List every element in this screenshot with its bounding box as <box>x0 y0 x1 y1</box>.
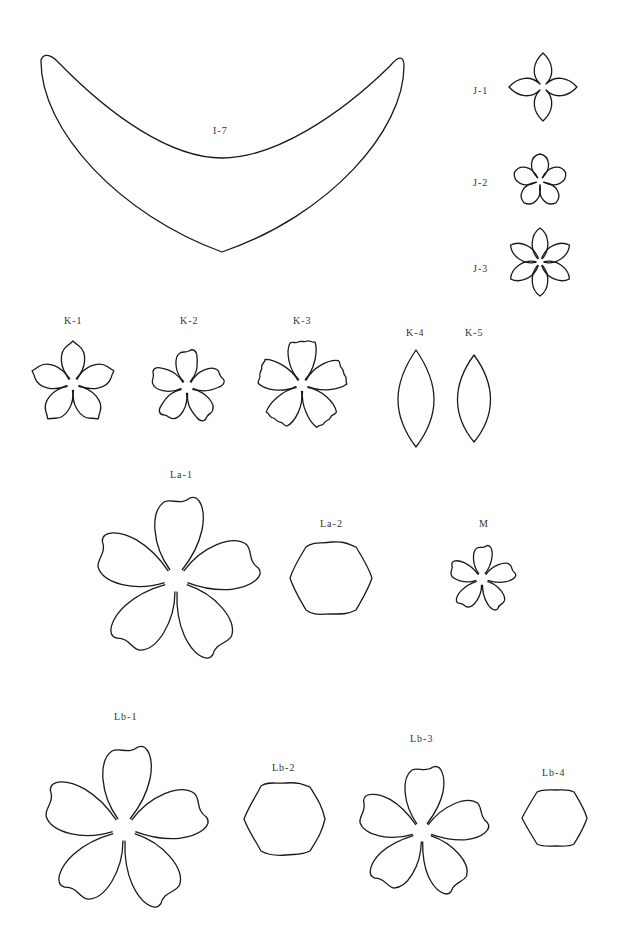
template-lb4-hexagon-shape <box>0 0 622 935</box>
template-label-lb4: Lb-4 <box>542 767 565 778</box>
